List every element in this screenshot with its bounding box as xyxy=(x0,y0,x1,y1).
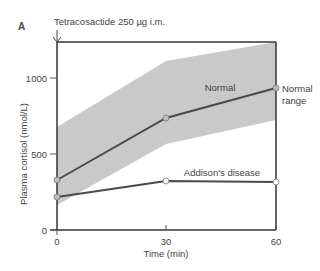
ytick-label-1000: 1000 xyxy=(26,73,47,84)
normal-range-label-line2: range xyxy=(282,95,306,106)
ytick-label-0: 0 xyxy=(42,225,47,236)
normal-series-label: Normal xyxy=(205,82,236,93)
xtick-label-60: 60 xyxy=(271,236,282,247)
addison-point-0 xyxy=(54,194,60,200)
normal-range-label-line1: Normal xyxy=(282,83,313,94)
ytick-label-500: 500 xyxy=(31,149,47,160)
normal-point-60 xyxy=(273,85,279,91)
normal-point-30 xyxy=(163,115,169,121)
addison-series-label: Addison's disease xyxy=(184,167,260,178)
addison-point-30 xyxy=(163,178,169,184)
x-axis-label: Time (min) xyxy=(143,248,188,259)
xtick-label-0: 0 xyxy=(54,236,59,247)
y-axis-label: Plasma cortisol (nmol/L) xyxy=(18,103,29,205)
panel-label: A xyxy=(18,21,25,32)
annotation-text: Tetracosactide 250 µg i.m. xyxy=(54,16,165,27)
xtick-label-30: 30 xyxy=(161,236,172,247)
addison-point-60 xyxy=(273,179,279,185)
cortisol-chart: A Tetracosactide 250 µg i.m. 1000 500 0 … xyxy=(0,0,320,271)
normal-point-0 xyxy=(54,177,60,183)
